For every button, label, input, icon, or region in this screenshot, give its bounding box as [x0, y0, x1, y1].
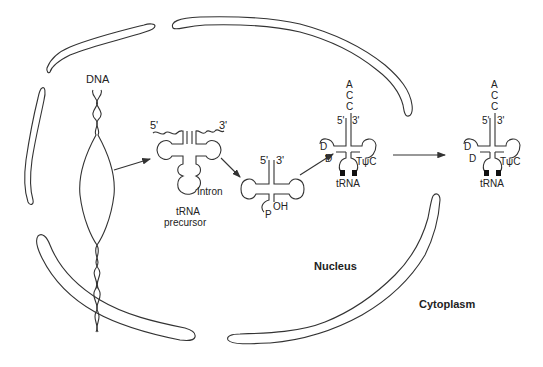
envelope-segment-top-right	[172, 17, 412, 116]
hydroxyl-label: OH	[273, 201, 288, 212]
envelope-segment-top-left	[47, 24, 155, 73]
anticodon-block	[484, 170, 489, 176]
anticodon-block	[496, 170, 501, 176]
dna-label: DNA	[86, 73, 110, 85]
mature-5prime: 5'	[337, 115, 345, 126]
phosphate-label: P	[265, 209, 272, 220]
d-mod-1: D	[320, 141, 327, 152]
intron-label: Intron	[197, 186, 223, 197]
nuclear-envelope	[25, 17, 440, 344]
precursor-5prime: 5'	[150, 119, 158, 131]
spliced-5prime: 5'	[260, 154, 268, 166]
acc-c1: C	[346, 90, 353, 101]
trna-spliced-intermediate: 5' 3' P OH	[241, 154, 304, 220]
cyto-3prime: 3'	[497, 115, 505, 126]
arrow-splicing	[221, 158, 240, 177]
arrow-transcription	[114, 159, 150, 170]
tpsic-label: TψC	[356, 156, 376, 167]
cyto-acc-c2: C	[491, 101, 498, 112]
anticodon-block	[352, 170, 357, 176]
acc-a: A	[346, 79, 353, 90]
diagram-svg: DNA 5' 3' Intron tRNA precursor 5' 3' P …	[0, 0, 543, 367]
dna-structure: DNA	[80, 73, 115, 332]
trna-mature-cytoplasm: A C C 5' 3' D D TψC tRNA	[464, 79, 520, 189]
envelope-segment-bottom-left	[37, 235, 196, 341]
cyto-5prime: 5'	[482, 115, 490, 126]
mature-3prime: 3'	[352, 115, 360, 126]
spliced-3prime: 3'	[276, 154, 284, 166]
trna-processing-diagram: DNA 5' 3' Intron tRNA precursor 5' 3' P …	[0, 0, 543, 367]
precursor-label-line2: precursor	[164, 217, 207, 228]
cyto-acc-a: A	[491, 79, 498, 90]
precursor-label-line1: tRNA	[176, 206, 200, 217]
trna-precursor: 5' 3' Intron tRNA precursor	[150, 119, 227, 228]
acc-c2: C	[346, 101, 353, 112]
anticodon-block	[340, 170, 345, 176]
cyto-acc-c1: C	[491, 90, 498, 101]
cytoplasm-label: Cytoplasm	[419, 298, 475, 310]
nucleus-label: Nucleus	[314, 260, 357, 272]
cyto-mature-label: tRNA	[480, 178, 504, 189]
cyto-d-mod-1: D	[464, 141, 471, 152]
cyto-d-mod-2: D	[469, 153, 476, 164]
cyto-tpsic-label: TψC	[500, 156, 520, 167]
envelope-segment-left	[25, 88, 45, 205]
trna-mature-nuclear: A C C 5' 3' D D TψC tRNA	[320, 79, 376, 189]
mature-label: tRNA	[336, 178, 360, 189]
d-mod-2: D	[325, 153, 332, 164]
precursor-3prime: 3'	[219, 119, 227, 131]
